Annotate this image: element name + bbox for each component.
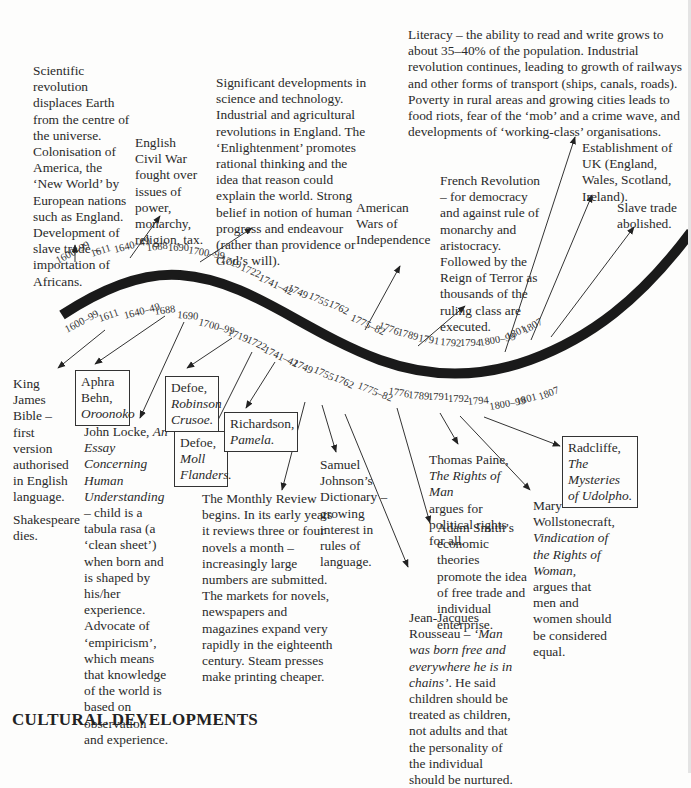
behn-title: Oroonoko (81, 406, 135, 421)
note-king-james-bible: King James Bible – first version authori… (13, 376, 71, 544)
note-slave-trade-abolished: Slave trade abolished. (617, 200, 679, 232)
note-scientific-revolution: Scientific revolution displaces Earth fr… (33, 63, 133, 290)
shakespeare-text: Shakespeare dies. (13, 512, 71, 544)
year-label: 1789 (396, 326, 419, 342)
radcliffe-author: Radcliffe, (568, 440, 621, 455)
pamela-author: Richardson, (230, 416, 294, 431)
year-label: 1791 (428, 391, 449, 402)
pamela-title: Pamela. (230, 432, 274, 447)
year-label: 1792 (448, 393, 469, 404)
year-label: 1801 (515, 391, 538, 407)
box-robinson-crusoe: Defoe, Robinson Crusoe. (165, 376, 219, 432)
moll-author: Defoe, (180, 435, 216, 450)
wollstonecraft-desc: argues that men and women should be cons… (533, 579, 611, 659)
radcliffe-title: The Mysteries of Udolpho. (568, 456, 632, 503)
year-label: 1807 (537, 384, 560, 402)
paine-title: The Rights of Man (429, 468, 500, 499)
note-american-wars: American Wars of Independence (356, 200, 424, 249)
page-title: CULTURAL DEVELOPMENTS (12, 710, 258, 730)
year-label: 1762 (332, 372, 356, 391)
box-pamela: Richardson, Pamela. (224, 412, 298, 452)
wollstonecraft-title: Vindication of the Rights of Woman, (533, 530, 608, 577)
note-french-revolution: French Revolution – for democracy and ag… (440, 173, 548, 335)
paine-author: Thomas Paine, (429, 452, 509, 467)
kjb-text: King James Bible – first version authori… (13, 376, 71, 506)
year-label: 1690 (177, 309, 199, 322)
year-label: 1749 (291, 357, 315, 376)
note-enlightenment: Significant developments in science and … (216, 75, 372, 269)
note-rousseau: Jean-Jacques Rousseau – ‘Man was born fr… (409, 610, 517, 788)
note-thomas-paine: Thomas Paine, The Rights of Man argues f… (429, 452, 524, 549)
behn-author: Aphra Behn, (81, 374, 114, 405)
moll-title: Moll Flanders. (180, 451, 232, 482)
year-label: 1789 (408, 389, 430, 402)
note-johnson-dictionary: Samuel Johnson’s Dictionary – growing in… (320, 457, 390, 570)
year-label: 1794 (467, 394, 490, 407)
year-label: 1762 (327, 298, 351, 317)
note-john-locke: John Locke, An Essay Concerning Human Un… (84, 424, 169, 748)
year-label: 1688 (154, 303, 176, 317)
box-aphra-behn: Aphra Behn, Oroonoko (75, 370, 130, 426)
crusoe-author: Defoe, (171, 380, 207, 395)
note-english-civil-war: English Civil War fought over issues of … (135, 135, 205, 248)
note-uk-establishment: Establishment of UK (England, Wales, Sco… (582, 140, 680, 205)
year-label: 1792 (440, 336, 462, 349)
box-moll-flanders: Defoe, Moll Flanders. (174, 431, 228, 487)
paine-desc: argues for political rights for all. (429, 501, 507, 548)
year-label: 1611 (97, 306, 120, 323)
note-wollstonecraft: Mary Wollstonecraft, Vindication of the … (533, 498, 613, 660)
year-label: 1749 (286, 282, 310, 301)
note-literacy: Literacy – the ability to read and write… (408, 27, 688, 140)
locke-author: John Locke, (84, 424, 149, 439)
box-radcliffe: Radcliffe, The Mysteries of Udolpho. (562, 436, 638, 508)
year-label: 1791 (418, 332, 441, 346)
crusoe-title: Robinson Crusoe. (171, 396, 222, 427)
rousseau-desc: . He said children should be treated as … (409, 675, 513, 787)
